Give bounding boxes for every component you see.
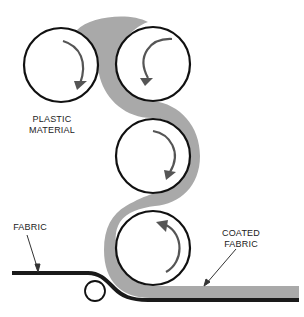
- label-coated-fabric: COATED FABRIC: [214, 228, 268, 250]
- label-plastic-line2: MATERIAL: [26, 125, 78, 136]
- calender-diagram: [0, 0, 304, 317]
- label-coated-line2: FABRIC: [214, 239, 268, 250]
- fabric-leader-arrowhead: [35, 264, 40, 272]
- roller-3: [116, 119, 190, 193]
- roller-1: [24, 28, 98, 102]
- label-fabric-text: FABRIC: [10, 222, 50, 233]
- label-plastic-material: PLASTIC MATERIAL: [26, 114, 78, 136]
- roller-2: [116, 27, 190, 101]
- coated-leader-line: [206, 249, 236, 284]
- label-plastic-line1: PLASTIC: [26, 114, 78, 125]
- label-coated-line1: COATED: [214, 228, 268, 239]
- guide-roller: [85, 281, 105, 301]
- label-fabric: FABRIC: [10, 222, 50, 233]
